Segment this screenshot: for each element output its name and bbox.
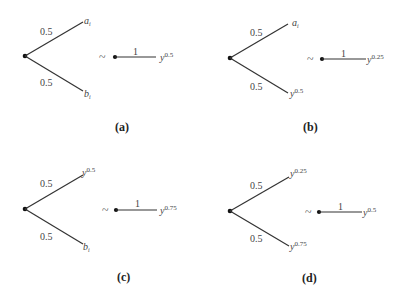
outcome-exponent: 0.75 [294,240,306,248]
lower-probability: 0.5 [250,234,263,244]
outcome-subscript: i [89,94,91,100]
indifference-symbol: ~ [307,52,314,67]
outcome-exponent: 0.5 [164,51,173,59]
certain-probability: 1 [135,199,140,209]
certain-outcome: y0.25 [367,55,384,65]
certain-outcome: y0.5 [160,53,173,63]
lower-outcome: bi [84,89,91,99]
lower-outcome: y0.75 [290,242,307,252]
indifference-symbol: ~ [305,205,312,220]
lottery-tree-graphic [0,0,201,147]
upper-outcome: y0.25 [290,169,307,179]
outcome-exponent: 0.5 [367,206,376,214]
panel-caption: (c) [117,270,130,285]
lower-probability: 0.5 [250,82,263,92]
upper-outcome: ai [292,18,299,28]
lower-probability: 0.5 [40,232,53,242]
upper-probability: 0.5 [250,181,263,191]
lower-outcome: y0.5 [290,89,303,99]
panel-caption: (b) [303,120,318,135]
certain-probability: 1 [341,49,346,59]
upper-outcome: y0.5 [82,168,95,178]
outcome-subscript: i [297,23,299,29]
lottery-tree-graphic [0,150,201,295]
upper-probability: 0.5 [40,27,53,37]
certain-probability: 1 [338,202,343,212]
upper-outcome: ai [84,16,91,26]
certain-probability: 1 [133,47,138,57]
lottery-tree-graphic [200,0,401,147]
outcome-exponent: 0.25 [371,53,383,61]
panel-d: 0.5 0.5 y0.25 y0.75 ~ 1 y0.5 (d) [200,150,401,295]
panel-a: 0.5 0.5 ai bi ~ 1 y0.5 (a) [0,0,201,147]
lower-probability: 0.5 [40,78,53,88]
outcome-subscript: i [88,247,90,253]
outcome-exponent: 0.25 [294,167,306,175]
indifference-symbol: ~ [102,203,109,218]
upper-probability: 0.5 [40,179,53,189]
panel-c: 0.5 0.5 y0.5 bi ~ 1 y0.75 (c) [0,150,201,295]
outcome-exponent: 0.5 [86,166,95,174]
outcome-exponent: 0.5 [294,87,303,95]
upper-probability: 0.5 [250,28,263,38]
panel-b: 0.5 0.5 ai y0.5 ~ 1 y0.25 (b) [200,0,401,147]
certain-outcome: y0.5 [363,208,376,218]
lower-outcome: bi [83,242,90,252]
panel-caption: (d) [302,271,317,286]
panel-caption: (a) [115,120,129,135]
indifference-symbol: ~ [99,50,106,65]
outcome-exponent: 0.75 [164,204,176,212]
outcome-subscript: i [89,21,91,27]
certain-outcome: y0.75 [160,206,177,216]
